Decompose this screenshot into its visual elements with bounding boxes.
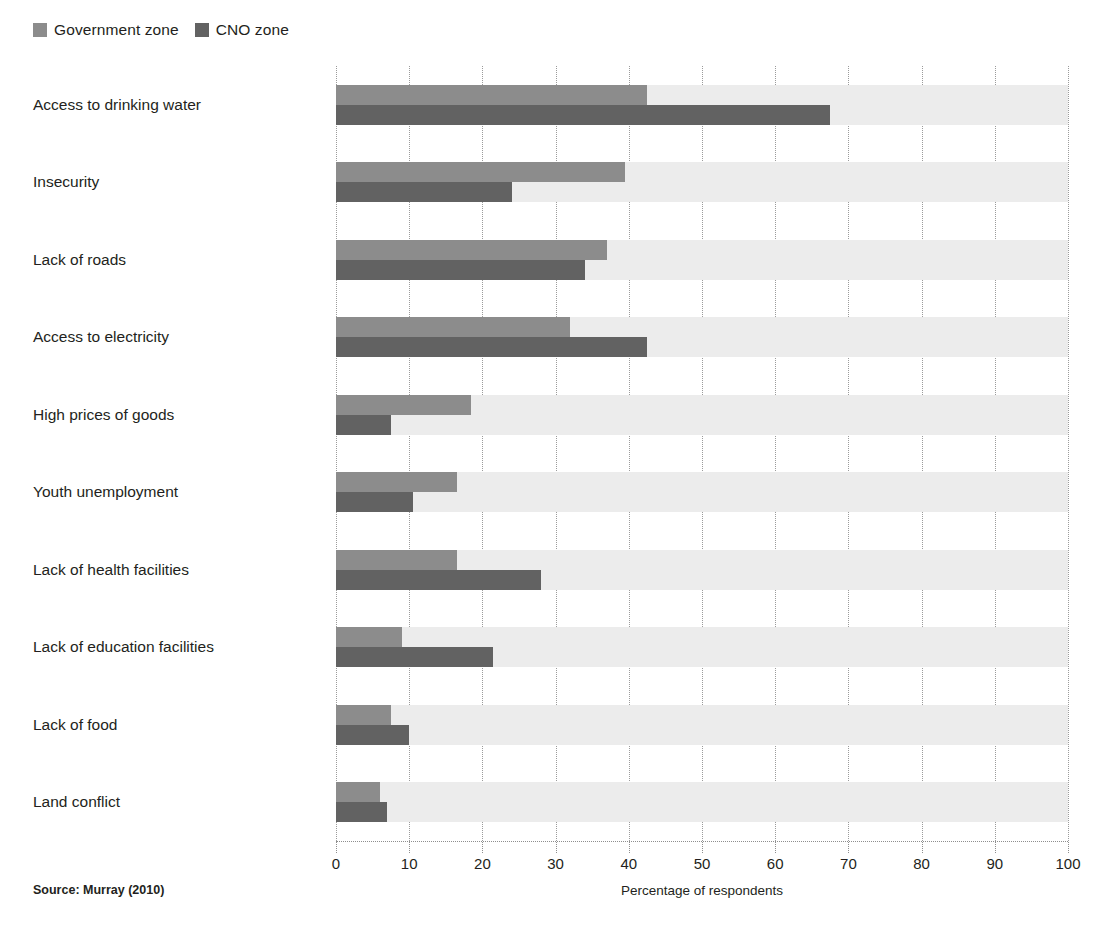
legend-label: CNO zone <box>216 22 289 38</box>
category-label: Lack of food <box>33 717 117 733</box>
bar-government-zone <box>336 240 607 260</box>
bar-cno-zone <box>336 337 647 357</box>
x-tick-label: 40 <box>620 856 637 871</box>
category-label: Access to drinking water <box>33 97 201 113</box>
chart-plot-area <box>336 66 1068 841</box>
legend-item-cno-zone: CNO zone <box>195 22 289 38</box>
x-tick-label: 50 <box>694 856 711 871</box>
bar-government-zone <box>336 395 471 415</box>
category-label: Lack of education facilities <box>33 639 214 655</box>
category-label: Lack of roads <box>33 252 126 268</box>
x-tick-90 <box>995 842 997 853</box>
x-tick-label: 70 <box>840 856 857 871</box>
x-tick-label: 0 <box>332 856 340 871</box>
x-tick-10 <box>409 842 411 853</box>
bar-government-zone <box>336 162 625 182</box>
x-tick-label: 100 <box>1055 856 1080 871</box>
category-label: Land conflict <box>33 794 120 810</box>
x-tick-60 <box>775 842 777 853</box>
x-tick-label: 10 <box>401 856 418 871</box>
x-tick-30 <box>556 842 558 853</box>
bar-government-zone <box>336 85 647 105</box>
bar-government-zone <box>336 317 570 337</box>
x-tick-70 <box>848 842 850 853</box>
category-label: Insecurity <box>33 174 99 190</box>
bar-government-zone <box>336 782 380 802</box>
legend-swatch-icon <box>33 23 47 37</box>
bar-cno-zone <box>336 725 409 745</box>
x-tick-label: 30 <box>547 856 564 871</box>
x-axis: 0102030405060708090100 <box>336 841 1068 844</box>
bar-cno-zone <box>336 105 830 125</box>
bar-cno-zone <box>336 570 541 590</box>
category-label: Youth unemployment <box>33 484 178 500</box>
x-tick-40 <box>629 842 631 853</box>
x-tick-label: 60 <box>767 856 784 871</box>
bar-government-zone <box>336 627 402 647</box>
x-tick-label: 90 <box>986 856 1003 871</box>
bar-government-zone <box>336 705 391 725</box>
source-note: Source: Murray (2010) <box>33 884 164 897</box>
category-label: Lack of health facilities <box>33 562 189 578</box>
bar-cno-zone <box>336 260 585 280</box>
legend-label: Government zone <box>54 22 179 38</box>
x-tick-0 <box>336 842 338 853</box>
row-band <box>336 705 1068 745</box>
x-tick-20 <box>482 842 484 853</box>
row-band <box>336 782 1068 822</box>
category-label: Access to electricity <box>33 329 169 345</box>
bar-government-zone <box>336 550 457 570</box>
x-tick-label: 80 <box>913 856 930 871</box>
category-label: High prices of goods <box>33 407 174 423</box>
legend-swatch-icon <box>195 23 209 37</box>
legend-item-government-zone: Government zone <box>33 22 179 38</box>
bar-cno-zone <box>336 415 391 435</box>
chart-legend: Government zone CNO zone <box>33 20 289 40</box>
gridline-100 <box>1068 66 1070 841</box>
bar-cno-zone <box>336 647 493 667</box>
bar-government-zone <box>336 472 457 492</box>
x-tick-100 <box>1068 842 1070 853</box>
bar-cno-zone <box>336 802 387 822</box>
x-tick-80 <box>922 842 924 853</box>
bar-cno-zone <box>336 492 413 512</box>
x-tick-label: 20 <box>474 856 491 871</box>
bar-cno-zone <box>336 182 512 202</box>
x-tick-50 <box>702 842 704 853</box>
x-axis-title: Percentage of respondents <box>336 884 1068 898</box>
